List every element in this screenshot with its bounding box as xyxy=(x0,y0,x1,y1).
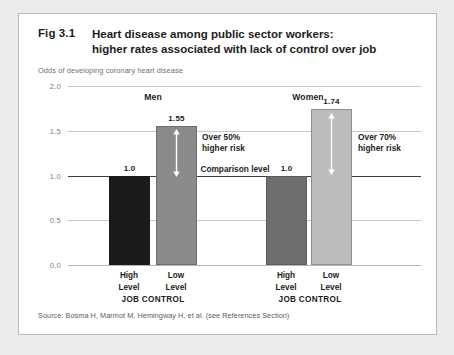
annotation-women-risk: Over 70% higher risk xyxy=(358,132,401,154)
bar-value-women-high-level: 1.0 xyxy=(266,164,307,173)
x-label-men-low-line-1: Low xyxy=(168,271,184,280)
bar-women-high-level xyxy=(266,176,307,265)
gridline-0-0 xyxy=(68,265,421,266)
y-tick-0-5: 0.5 xyxy=(31,216,61,225)
x-label-men-low-line-2: Level xyxy=(148,282,204,294)
annotation-men-risk-line-1: Over 50% xyxy=(202,132,240,142)
gridline-2-0 xyxy=(68,86,421,87)
bar-value-women-low-level: 1.74 xyxy=(311,97,352,106)
annotation-women-risk-line-2: higher risk xyxy=(358,143,401,154)
bar-value-men-low-level: 1.55 xyxy=(156,114,197,123)
y-tick-2-0: 2.0 xyxy=(31,82,61,91)
annotation-comparison-line-1: Comparison xyxy=(200,164,248,174)
annotation-women-risk-line-1: Over 70% xyxy=(358,132,396,142)
y-tick-1-0: 1.0 xyxy=(31,172,61,181)
y-tick-0-0: 0.0 xyxy=(31,261,61,270)
x-label-women-low: Low Level xyxy=(303,270,359,293)
x-label-women-low-line-2: Level xyxy=(303,282,359,294)
source-citation: Source: Bosma H, Marmot M, Hemingway H, … xyxy=(38,311,289,320)
annotation-men-risk-line-2: higher risk xyxy=(202,143,245,154)
x-label-men-low: Low Level xyxy=(148,270,204,293)
y-tick-1-5: 1.5 xyxy=(31,127,61,136)
risk-arrow-women xyxy=(327,113,336,175)
figure-card: Fig 3.1 Heart disease among public secto… xyxy=(18,13,437,335)
risk-arrow-men xyxy=(172,129,181,177)
x-axis-title-men: JOB CONTROL xyxy=(93,295,213,304)
annotation-men-risk: Over 50% higher risk xyxy=(202,132,245,154)
chart-plot-area: 2.0 1.5 1.0 0.5 0.0 Men Women 1.0 1.55 O… xyxy=(19,14,438,336)
bar-value-men-high-level: 1.0 xyxy=(109,164,150,173)
x-label-women-low-line-1: Low xyxy=(323,271,339,280)
group-label-men: Men xyxy=(123,92,183,102)
x-label-women-high-line-1: High xyxy=(277,271,295,280)
x-axis-title-women: JOB CONTROL xyxy=(250,295,370,304)
x-label-men-high-line-1: High xyxy=(120,271,138,280)
bar-men-high-level xyxy=(109,176,150,265)
annotation-comparison-level: Comparison level xyxy=(199,164,271,175)
